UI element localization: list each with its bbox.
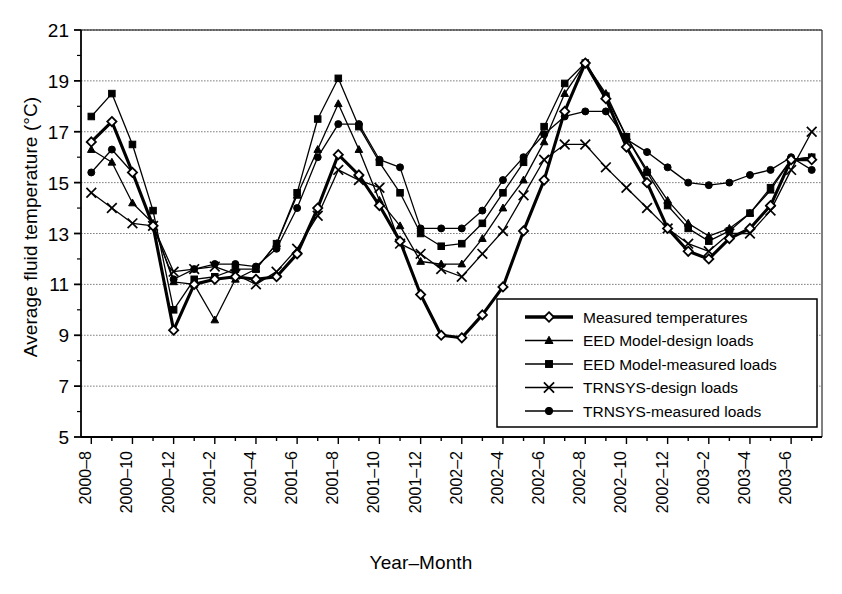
data-point-filled-circle — [808, 166, 815, 173]
data-point-cross — [107, 203, 117, 213]
data-point-filled-circle — [232, 261, 239, 268]
data-point-filled-square — [767, 184, 774, 191]
data-point-filled-square — [88, 113, 95, 120]
data-point-filled-circle — [644, 149, 651, 156]
x-tick-label: 2002–2 — [448, 451, 465, 504]
data-point-filled-triangle — [520, 176, 528, 183]
data-point-filled-circle — [417, 225, 424, 232]
data-point-filled-circle — [746, 171, 753, 178]
y-tick-label: 13 — [48, 224, 69, 245]
data-point-filled-circle — [541, 131, 548, 138]
x-tick-label: 2000–8 — [77, 451, 94, 504]
data-point-filled-square — [335, 75, 342, 82]
y-tick-label: 19 — [48, 71, 69, 92]
data-point-filled-square — [129, 141, 136, 148]
y-tick-label: 21 — [48, 20, 69, 41]
chart-svg: 579111315171921 2000–82000–102000–122001… — [0, 0, 842, 594]
data-point-filled-circle — [191, 266, 198, 273]
series-line — [91, 63, 811, 338]
data-point-filled-circle — [397, 164, 404, 171]
x-tick-label: 2001–4 — [242, 451, 259, 504]
y-tick-label: 15 — [48, 173, 69, 194]
data-point-filled-circle — [314, 154, 321, 161]
data-point-filled-circle — [458, 225, 465, 232]
data-point-open-diamond — [540, 175, 549, 184]
legend-label: EED Model-measured loads — [583, 356, 777, 373]
data-point-cross — [601, 163, 611, 173]
series-trnsys-design-loads — [86, 127, 816, 289]
x-tick-label: 2000–12 — [160, 451, 177, 513]
data-point-filled-triangle — [314, 146, 322, 153]
series-line — [91, 132, 811, 285]
data-point-filled-circle — [273, 245, 280, 252]
data-point-filled-circle — [499, 177, 506, 184]
data-point-filled-square — [706, 238, 713, 245]
data-point-filled-circle — [520, 154, 527, 161]
data-point-filled-circle — [88, 169, 95, 176]
data-point-filled-circle — [211, 261, 218, 268]
y-tick-label: 17 — [48, 122, 69, 143]
x-tick-label: 2001–10 — [365, 451, 382, 513]
data-point-filled-triangle — [355, 146, 363, 153]
data-point-cross — [498, 226, 508, 236]
x-tick-label: 2002–12 — [654, 451, 671, 513]
x-tick-label: 2002–4 — [489, 451, 506, 504]
legend-label: EED Model-design loads — [583, 332, 754, 349]
chart-legend: Measured temperaturesEED Model-design lo… — [497, 299, 817, 427]
data-point-cross — [642, 203, 652, 213]
legend-label: Measured temperatures — [583, 309, 748, 326]
y-axis-ticks — [74, 30, 81, 437]
y-tick-label: 7 — [58, 376, 69, 397]
x-tick-label: 2002–8 — [571, 451, 588, 504]
data-point-filled-square — [459, 240, 466, 247]
data-point-filled-square — [546, 361, 553, 368]
x-tick-label: 2001–8 — [324, 451, 341, 504]
series-line — [91, 63, 811, 320]
data-point-filled-square — [109, 90, 116, 97]
data-point-filled-circle — [705, 182, 712, 189]
y-tick-label: 5 — [58, 427, 69, 448]
x-tick-label: 2001–2 — [201, 451, 218, 504]
x-axis-tick-labels: 2000–82000–102000–122001–22001–42001–620… — [77, 451, 794, 513]
data-point-filled-square — [500, 190, 507, 197]
data-point-filled-square — [747, 210, 754, 217]
data-point-filled-square — [294, 190, 301, 197]
data-point-open-diamond — [519, 226, 528, 235]
data-point-filled-square — [664, 202, 671, 209]
y-axis-tick-labels: 579111315171921 — [48, 20, 69, 448]
data-point-filled-circle — [767, 166, 774, 173]
x-tick-label: 2003–4 — [736, 451, 753, 504]
data-point-filled-square — [541, 123, 548, 130]
data-point-filled-square — [685, 225, 692, 232]
data-point-filled-circle — [335, 121, 342, 128]
data-point-filled-circle — [170, 276, 177, 283]
data-point-filled-circle — [726, 179, 733, 186]
data-point-cross — [375, 183, 385, 193]
data-point-cross — [622, 183, 632, 193]
data-point-filled-circle — [294, 205, 301, 212]
data-point-cross — [457, 272, 467, 282]
x-axis-ticks — [91, 437, 811, 444]
data-point-filled-circle — [664, 164, 671, 171]
data-point-filled-triangle — [129, 199, 137, 206]
data-point-filled-triangle — [334, 100, 342, 107]
data-point-cross — [86, 188, 96, 198]
x-tick-label: 2002–10 — [612, 451, 629, 513]
data-point-filled-square — [644, 169, 651, 176]
x-tick-label: 2000–10 — [118, 451, 135, 513]
plot-area: 579111315171921 2000–82000–102000–122001… — [0, 0, 842, 594]
data-point-filled-circle — [479, 207, 486, 214]
x-tick-label: 2001–6 — [283, 451, 300, 504]
x-tick-label: 2001–12 — [407, 451, 424, 513]
data-point-filled-circle — [376, 156, 383, 163]
series-line — [91, 111, 811, 279]
data-point-open-diamond — [169, 326, 178, 335]
data-point-cross — [539, 155, 549, 165]
data-point-filled-square — [397, 190, 404, 197]
data-point-filled-square — [479, 220, 486, 227]
data-point-cross — [478, 249, 488, 259]
data-point-filled-square — [438, 243, 445, 250]
x-tick-label: 2003–6 — [777, 451, 794, 504]
data-point-filled-square — [150, 207, 157, 214]
x-tick-label: 2003–2 — [695, 451, 712, 504]
